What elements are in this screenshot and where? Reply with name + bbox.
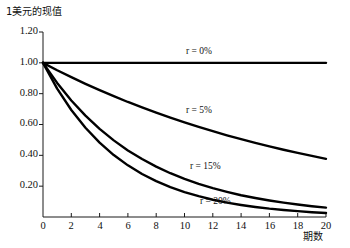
y-tick-label: 1.00 [4,56,38,67]
x-tick-label: 18 [287,220,309,231]
x-tick-label: 16 [259,220,281,231]
x-tick-label: 20 [315,220,337,231]
y-axis-title: 1美元的现值 [6,3,62,18]
y-tick-label: 1.20 [4,25,38,36]
curve-0.2 [43,63,326,213]
curve-label-r0: r = 0% [186,46,212,56]
x-tick-label: 2 [60,220,82,231]
x-tick-label: 4 [89,220,111,231]
curve-label-r20: r = 20% [200,196,231,206]
curve-label-r5: r = 5% [186,105,212,115]
curves-group [43,63,326,213]
curve-label-r15: r = 15% [190,161,221,171]
x-tick-label: 12 [202,220,224,231]
plot-area [0,0,350,248]
chart-figure: 1美元的现值 期数 1.20 1.00 0.80 0.60 0.40 0.20 … [0,0,350,248]
x-tick-label: 0 [32,220,54,231]
x-tick-label: 6 [117,220,139,231]
x-tick-label: 14 [230,220,252,231]
x-tick-label: 10 [174,220,196,231]
y-tick-label: 0.20 [4,179,38,190]
y-tick-label: 0.60 [4,117,38,128]
y-tick-label: 0.80 [4,87,38,98]
curve-0.05 [43,63,326,159]
y-tick-label: 0.40 [4,148,38,159]
x-tick-label: 8 [145,220,167,231]
